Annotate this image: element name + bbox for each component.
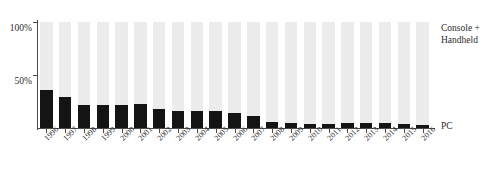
bar-pc xyxy=(153,109,165,128)
bar-pc xyxy=(78,105,90,128)
bar-console-handheld xyxy=(285,22,297,128)
bar-column xyxy=(247,22,259,128)
y-tick-label-wrap: 50% xyxy=(0,70,32,88)
series-label-pc-text: PC xyxy=(441,120,453,132)
bar-column xyxy=(360,22,372,128)
bar-pc xyxy=(97,105,109,128)
series-label-console-handheld: Console + Handheld xyxy=(441,22,480,46)
bar-pc xyxy=(172,111,184,128)
bar-column xyxy=(97,22,109,128)
bar-column xyxy=(134,22,146,128)
bar-column xyxy=(416,22,428,128)
bar-pc xyxy=(59,97,71,128)
bar-column xyxy=(40,22,52,128)
chart-container: 50%100% 19961997199819992000200120022003… xyxy=(0,0,485,183)
bar-column xyxy=(59,22,71,128)
bar-console-handheld xyxy=(360,22,372,128)
bar-pc xyxy=(228,113,240,128)
bar-column xyxy=(398,22,410,128)
bar-column xyxy=(191,22,203,128)
bar-console-handheld xyxy=(341,22,353,128)
bar-column xyxy=(209,22,221,128)
bar-console-handheld xyxy=(398,22,410,128)
bar-column xyxy=(115,22,127,128)
bar-console-handheld xyxy=(266,22,278,128)
bar-column xyxy=(153,22,165,128)
bar-console-handheld xyxy=(416,22,428,128)
bar-column xyxy=(341,22,353,128)
bar-column xyxy=(228,22,240,128)
bar-console-handheld xyxy=(379,22,391,128)
bar-pc xyxy=(134,104,146,128)
y-axis-line xyxy=(37,20,38,130)
bar-column xyxy=(379,22,391,128)
bar-column xyxy=(78,22,90,128)
y-tick-label-wrap: 100% xyxy=(0,17,32,35)
bar-pc xyxy=(115,105,127,128)
plot-area xyxy=(37,22,432,128)
bar-console-handheld xyxy=(304,22,316,128)
bar-column xyxy=(172,22,184,128)
bar-console-handheld xyxy=(228,22,240,128)
bar-console-handheld xyxy=(247,22,259,128)
series-label-pc: PC xyxy=(441,120,453,132)
y-tick-label: 50% xyxy=(15,76,32,86)
bar-column xyxy=(285,22,297,128)
y-tick-mark xyxy=(33,75,37,76)
bar-column xyxy=(322,22,334,128)
bar-pc xyxy=(209,111,221,128)
bar-column xyxy=(266,22,278,128)
bar-column xyxy=(304,22,316,128)
y-tick-mark xyxy=(33,22,37,23)
series-label-console-line1: Console + xyxy=(441,22,480,34)
series-label-console-line2: Handheld xyxy=(441,34,480,46)
bar-pc xyxy=(40,90,52,128)
y-tick-label: 100% xyxy=(10,23,32,33)
bar-console-handheld xyxy=(322,22,334,128)
bar-pc xyxy=(191,111,203,128)
